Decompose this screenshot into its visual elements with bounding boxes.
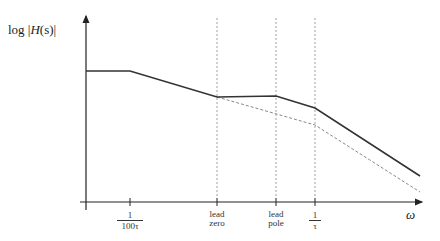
dashed-asymptote [217, 97, 420, 192]
tick-label-lead-zero: lead zero [200, 210, 234, 228]
bode-plot [0, 0, 440, 241]
guide-lines [217, 18, 315, 202]
tick-label-1-over-100tau: 1 100τ [117, 210, 143, 231]
y-axis-label: log |H(s)| [8, 22, 56, 38]
tick-label-lead-pole: lead pole [259, 210, 293, 228]
x-axis-label: ω [406, 207, 415, 223]
tick-label-1-over-tau: 1 τ [309, 210, 321, 231]
